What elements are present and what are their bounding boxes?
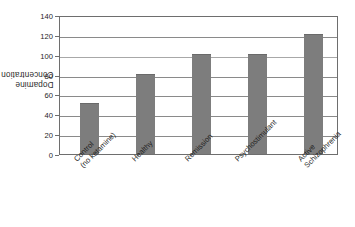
- y-axis-title-line-1: Dopamine: [0, 80, 53, 89]
- y-tick-label-140: 140: [27, 12, 53, 21]
- y-tick-label-20: 20: [27, 131, 53, 140]
- y-tick-label-120: 120: [27, 31, 53, 40]
- y-tick-label-0: 0: [27, 151, 53, 160]
- bar-chart: Dopamine Concentration (nM) 140 120 100 …: [0, 0, 355, 227]
- y-tick-label-80: 80: [27, 71, 53, 80]
- y-tick-label-100: 100: [27, 51, 53, 60]
- y-tick-label-40: 40: [27, 111, 53, 120]
- y-tick-mark-0: [55, 155, 59, 156]
- y-tick-label-60: 60: [27, 91, 53, 100]
- x-axis-labels: Control (no ketamine) Healthy Remission …: [59, 157, 338, 227]
